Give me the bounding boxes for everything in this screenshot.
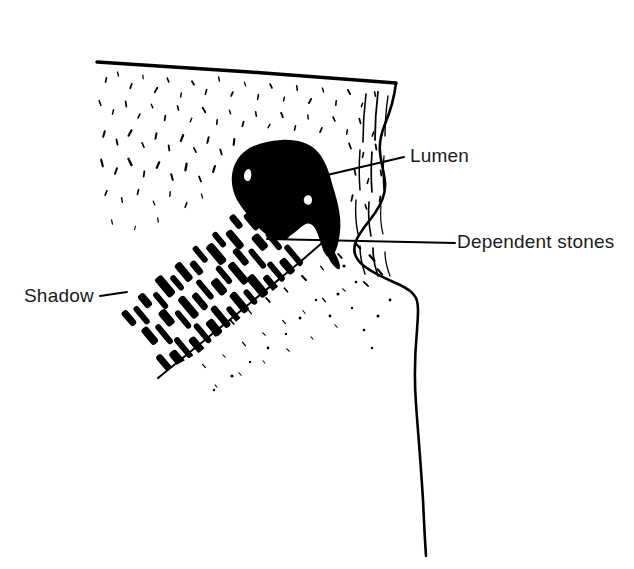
figure-background bbox=[0, 0, 634, 569]
annotation-label-dependent-stones: Dependent stones bbox=[457, 232, 614, 251]
annotation-label-lumen: Lumen bbox=[410, 146, 469, 165]
figure-canvas bbox=[0, 0, 634, 569]
ultrasound-figure: Lumen Dependent stones Shadow bbox=[0, 0, 634, 569]
annotation-label-shadow: Shadow bbox=[24, 286, 94, 305]
